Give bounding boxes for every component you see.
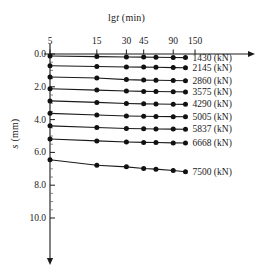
series-label: 1430 (kN) <box>192 53 231 63</box>
series-data-point <box>183 127 188 132</box>
series-data-point <box>153 78 158 83</box>
series-data-point <box>48 157 53 162</box>
series-data-point <box>48 111 53 116</box>
series-data-point <box>171 89 176 94</box>
series-data-point <box>141 55 146 60</box>
series-data-point <box>183 114 188 119</box>
series-data-point <box>94 125 99 130</box>
y-tick-label: 2.0 <box>6 82 46 92</box>
y-tick-label: 10.0 <box>6 213 46 223</box>
series-data-point <box>183 102 188 107</box>
series-data-point <box>183 89 188 94</box>
series-line <box>50 56 185 58</box>
series-data-point <box>94 64 99 69</box>
series-label: 2860 (kN) <box>192 76 231 86</box>
series-data-point <box>153 89 158 94</box>
x-tick-label: 45 <box>139 36 149 46</box>
series-data-point <box>48 136 53 141</box>
series-data-point <box>48 123 53 128</box>
series-data-point <box>94 54 99 59</box>
series-line <box>50 66 185 68</box>
series-data-point <box>94 100 99 105</box>
series-data-point <box>171 168 176 173</box>
series-data-point <box>94 138 99 143</box>
x-tick-label: 15 <box>92 36 102 46</box>
series-data-point <box>94 75 99 80</box>
series-data-point <box>141 140 146 145</box>
x-tick-label: 30 <box>122 36 132 46</box>
series-data-point <box>141 114 146 119</box>
x-axis-arrow-icon <box>248 51 255 57</box>
series-data-point <box>171 114 176 119</box>
series-data-point <box>153 114 158 119</box>
series-data-point <box>171 55 176 60</box>
series-data-point <box>153 167 158 172</box>
series-data-point <box>94 113 99 118</box>
series-data-point <box>171 140 176 145</box>
series-data-point <box>48 53 53 58</box>
series-data-point <box>171 102 176 107</box>
series-line <box>50 139 185 143</box>
series-line <box>50 126 185 129</box>
pile-settlement-chart: lgt (min) s (mm) 515304590150 0.02.04.06… <box>0 0 268 275</box>
series-line <box>50 101 185 104</box>
series-data-point <box>141 166 146 171</box>
series-data-point <box>183 65 188 70</box>
series-data-point <box>48 86 53 91</box>
x-tick-label: 5 <box>48 36 53 46</box>
series-data-point <box>141 78 146 83</box>
series-label: 3575 (kN) <box>192 87 231 97</box>
series-label: 2145 (kN) <box>192 63 231 73</box>
y-tick-label: 8.0 <box>6 180 46 190</box>
series-data-point <box>124 77 129 82</box>
series-data-point <box>48 74 53 79</box>
series-data-point <box>124 140 129 145</box>
series-data-point <box>171 65 176 70</box>
series-data-point <box>94 88 99 93</box>
series-data-point <box>141 89 146 94</box>
y-tick-label: 4.0 <box>6 115 46 125</box>
series-data-point <box>124 64 129 69</box>
series-data-point <box>153 126 158 131</box>
series-line <box>50 77 185 81</box>
series-data-point <box>141 126 146 131</box>
series-data-point <box>94 163 99 168</box>
series-label: 6668 (kN) <box>192 138 231 148</box>
series-data-point <box>48 98 53 103</box>
series-data-point <box>153 140 158 145</box>
series-line <box>50 160 185 172</box>
series-data-point <box>124 164 129 169</box>
y-tick-label: 6.0 <box>6 147 46 157</box>
series-data-point <box>124 89 129 94</box>
x-tick-label: 90 <box>168 36 178 46</box>
series-data-point <box>48 63 53 68</box>
series-data-point <box>153 65 158 70</box>
series-data-point <box>124 126 129 131</box>
series-data-point <box>153 102 158 107</box>
series-data-point <box>171 78 176 83</box>
series-data-point <box>171 127 176 132</box>
series-data-point <box>183 141 188 146</box>
y-tick-label: 0.0 <box>6 49 46 59</box>
series-label: 7500 (kN) <box>192 167 231 177</box>
series-data-point <box>183 169 188 174</box>
series-label: 5005 (kN) <box>192 112 231 122</box>
series-data-point <box>124 101 129 106</box>
series-line <box>50 89 185 92</box>
series-data-point <box>124 113 129 118</box>
series-data-point <box>141 101 146 106</box>
y-axis-arrow-icon <box>47 258 53 265</box>
series-label: 4290 (kN) <box>192 99 231 109</box>
x-tick-label: 150 <box>188 36 202 46</box>
series-label: 5837 (kN) <box>192 124 231 134</box>
series-data-point <box>153 55 158 60</box>
series-data-point <box>183 55 188 60</box>
series-data-point <box>183 78 188 83</box>
series-data-point <box>124 54 129 59</box>
series-data-point <box>141 65 146 70</box>
series-line <box>50 113 185 116</box>
